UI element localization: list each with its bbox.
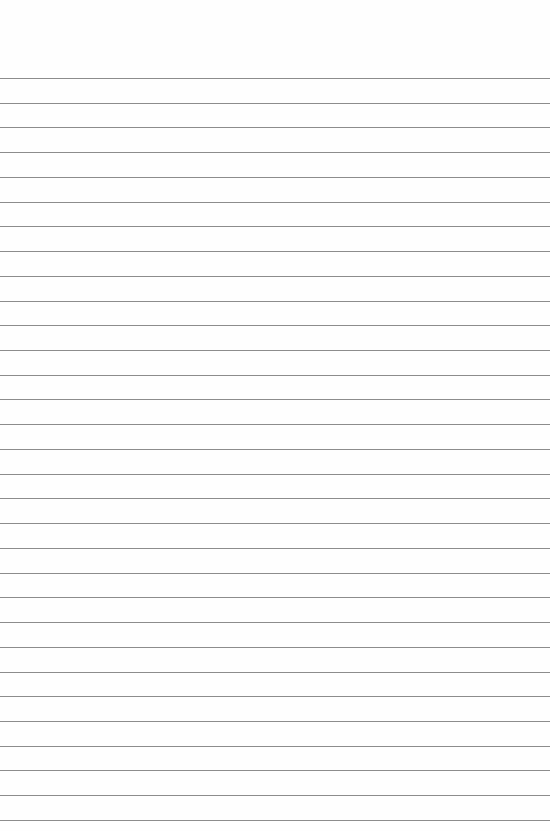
ruled-line xyxy=(0,103,550,104)
ruled-line xyxy=(0,548,550,549)
ruled-line xyxy=(0,251,550,252)
ruled-line xyxy=(0,127,550,128)
ruled-line xyxy=(0,597,550,598)
ruled-line xyxy=(0,78,550,79)
ruled-line xyxy=(0,375,550,376)
lined-paper xyxy=(0,0,550,831)
ruled-line xyxy=(0,696,550,697)
ruled-line xyxy=(0,523,550,524)
ruled-line xyxy=(0,770,550,771)
ruled-line xyxy=(0,301,550,302)
ruled-line xyxy=(0,177,550,178)
ruled-line xyxy=(0,152,550,153)
ruled-line xyxy=(0,325,550,326)
ruled-line xyxy=(0,746,550,747)
ruled-line xyxy=(0,424,550,425)
ruled-line xyxy=(0,474,550,475)
ruled-line xyxy=(0,498,550,499)
ruled-line xyxy=(0,647,550,648)
ruled-line xyxy=(0,672,550,673)
ruled-line xyxy=(0,399,550,400)
ruled-line xyxy=(0,350,550,351)
ruled-line xyxy=(0,276,550,277)
ruled-line xyxy=(0,795,550,796)
ruled-line xyxy=(0,721,550,722)
ruled-line xyxy=(0,622,550,623)
ruled-line xyxy=(0,820,550,821)
ruled-line xyxy=(0,226,550,227)
ruled-line xyxy=(0,573,550,574)
ruled-line xyxy=(0,202,550,203)
ruled-line xyxy=(0,449,550,450)
